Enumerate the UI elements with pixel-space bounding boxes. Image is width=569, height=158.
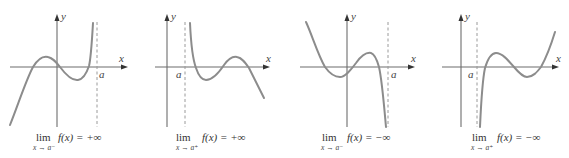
x-axis-arrow-icon [263,65,270,70]
panel-3: y x a lim x → a⁻ f(x) = −∞ [300,10,416,152]
function-curve [190,23,264,98]
x-axis-label: x [265,52,271,64]
caption-lim: lim [472,131,487,143]
y-axis-label: y [170,10,176,22]
y-axis-arrow-icon [345,14,350,21]
y-axis-arrow-icon [459,14,464,21]
y-axis-arrow-icon [55,14,60,21]
caption-function: f(x) = −∞ [497,131,541,144]
y-axis-label: y [60,10,66,22]
x-axis-label: x [410,52,416,64]
function-curve [306,22,386,127]
function-curve [480,32,555,127]
caption-lim: lim [36,131,51,143]
caption-function: f(x) = +∞ [58,131,102,144]
x-axis-arrow-icon [552,65,559,70]
caption-function: f(x) = +∞ [202,131,246,144]
caption-function: f(x) = −∞ [347,131,391,144]
caption-subscript: x → a⁻ [320,143,343,152]
x-axis-arrow-icon [121,65,128,70]
x-axis-label: x [118,52,124,64]
x-axis-label: x [555,52,561,64]
caption-lim: lim [322,131,337,143]
y-axis-label: y [350,10,356,22]
a-label: a [99,68,105,80]
caption-subscript: x → a⁻ [32,143,55,152]
caption-lim: lim [176,131,191,143]
x-axis-arrow-icon [408,65,415,70]
panel-4: y x a lim x → a⁺ f(x) = −∞ [442,10,561,152]
a-label: a [468,68,474,80]
function-curve [10,23,93,125]
panel-2: y x a lim x → a⁺ f(x) = +∞ [155,10,271,152]
y-axis-arrow-icon [165,14,170,21]
infinite-limits-figure: y x a lim x → a⁻ f(x) = +∞ y x a lim x →… [0,0,569,158]
a-label: a [391,68,397,80]
caption-subscript: x → a⁺ [470,143,493,152]
y-axis-label: y [464,10,470,22]
caption-subscript: x → a⁺ [175,143,198,152]
a-label: a [176,68,182,80]
panel-1: y x a lim x → a⁻ f(x) = +∞ [10,10,128,152]
